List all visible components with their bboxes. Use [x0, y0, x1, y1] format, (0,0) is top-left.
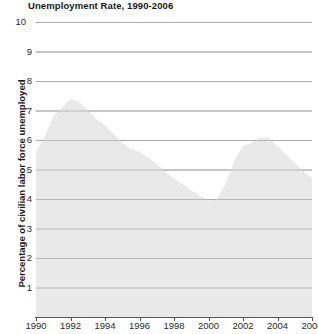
data-area-series: [36, 23, 312, 318]
y-tick-label: 5: [10, 165, 32, 175]
y-tick-label: 4: [10, 194, 32, 204]
area-fill: [36, 99, 312, 317]
plot-area: [0, 0, 318, 334]
y-tick-label: 10: [4, 17, 26, 27]
y-tick-label: 7: [10, 106, 32, 116]
x-tick-label: 2006: [292, 320, 318, 331]
y-tick-label: 9: [10, 47, 32, 57]
y-tick-label: 3: [10, 224, 32, 234]
y-tick-label: 2: [10, 253, 32, 263]
y-tick-label: 6: [10, 135, 32, 145]
unemployment-rate-chart: Unemployment Rate, 1990-2006 Percentage …: [0, 0, 318, 334]
y-tick-label: 8: [10, 76, 32, 86]
y-tick-label: 1: [10, 283, 32, 293]
